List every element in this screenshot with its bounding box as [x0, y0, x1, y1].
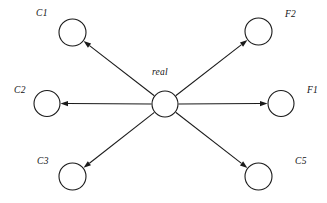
node-circle-c5[interactable] [245, 163, 272, 190]
edge-real-to-F2 [176, 45, 242, 96]
node-label-real: real [152, 68, 168, 78]
arrowhead-F1 [260, 101, 268, 106]
node-label-c3: C3 [37, 157, 49, 167]
node-circle-real[interactable] [152, 91, 178, 117]
node-circle-c1[interactable] [59, 19, 86, 46]
edge-real-to-C5 [176, 112, 242, 163]
node-label-f2: F2 [285, 10, 296, 20]
node-label-f1: F1 [307, 86, 318, 96]
node-label-c5: C5 [295, 157, 307, 167]
node-label-c1: C1 [36, 9, 48, 19]
edge-real-to-C3 [89, 112, 154, 163]
node-circle-c2[interactable] [34, 91, 60, 117]
arrowhead-C3 [84, 161, 92, 168]
diagram-canvas: realC1F2C2F1C3C5 [0, 0, 327, 203]
edge-real-to-C1 [90, 46, 155, 96]
arrowhead-F2 [240, 40, 248, 47]
node-label-c2: C2 [14, 86, 26, 96]
arrowhead-C1 [84, 41, 92, 48]
graph-svg [0, 0, 327, 203]
arrowhead-C2 [60, 101, 68, 106]
node-circle-c3[interactable] [59, 163, 86, 190]
node-circle-f2[interactable] [245, 18, 272, 45]
node-circle-f1[interactable] [268, 91, 294, 117]
arrowhead-C5 [240, 161, 248, 168]
